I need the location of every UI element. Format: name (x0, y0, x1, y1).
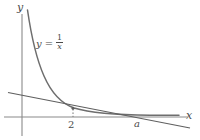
y-axis-label: y (17, 2, 23, 13)
equation-left-side: y (36, 39, 42, 49)
tangent-line (8, 93, 190, 129)
curve-y-equals-one-over-x (28, 10, 180, 115)
figure-container: y x 2 a y = 1 x (0, 0, 200, 140)
plot-svg (0, 0, 200, 140)
fraction-numerator: 1 (56, 34, 63, 42)
tangency-point-marker (72, 107, 75, 110)
equation-annotation: y = 1 x (36, 35, 63, 53)
x-axis-label: x (186, 110, 192, 121)
fraction-denominator: x (56, 43, 63, 51)
equation-equals-sign: = (45, 39, 53, 49)
x-tick-label-2: 2 (68, 120, 74, 130)
x-tick-label-a: a (134, 119, 140, 129)
equation-fraction: 1 x (56, 34, 63, 52)
